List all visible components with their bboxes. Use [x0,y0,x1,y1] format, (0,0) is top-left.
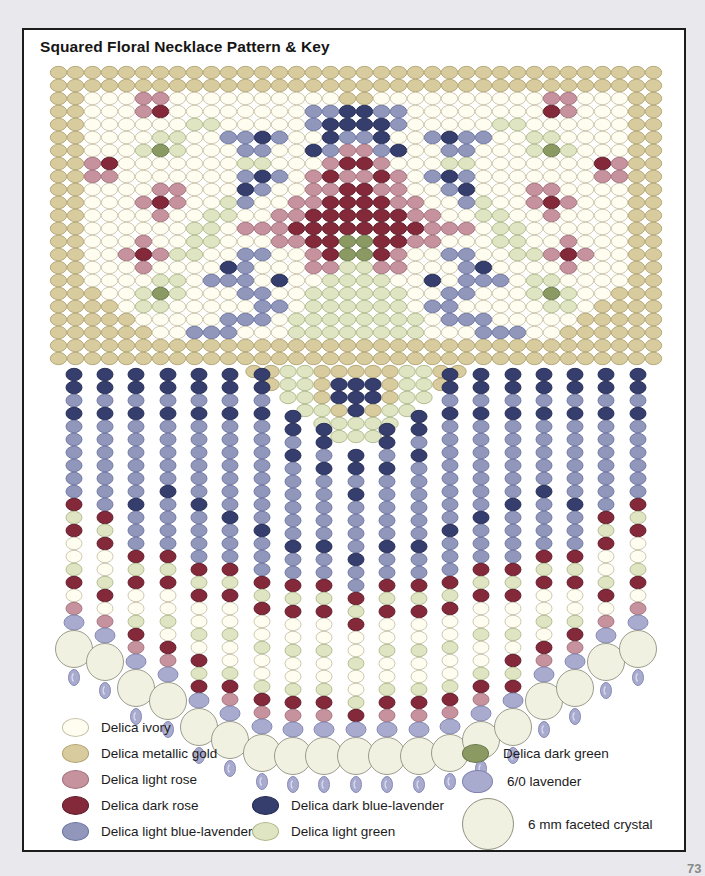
band-bead [560,235,576,247]
band-bead [339,118,355,130]
fringe-dangle-bead [414,777,425,793]
band-bead [628,287,644,299]
band-bead [543,248,559,260]
band-bead [101,248,117,260]
band-bead [305,131,321,143]
band-bead [339,170,355,182]
band-bead [441,274,457,286]
band-bead [322,261,338,273]
fringe-bead [97,472,113,484]
band-bead [526,313,542,325]
band-bead [169,326,185,338]
band-bead [356,261,372,273]
band-bead [475,300,491,312]
band-bead [560,92,576,104]
band-bead [407,261,423,273]
band-bead [373,209,389,221]
fringe-bead [473,394,489,406]
fringe-bead [285,605,301,617]
band-bead [526,261,542,273]
fringe-bead [411,605,427,617]
fringe-dangle-bead [508,748,519,764]
band-bead [475,66,491,78]
band-bead [220,274,236,286]
fringe-bead [630,550,646,562]
fringe-bead [348,696,364,708]
band-bead [577,339,593,351]
fringe-bead [567,446,583,458]
fringe-bead [536,394,552,406]
fringe-bead [505,680,521,692]
band-bead [135,157,151,169]
fringe-bead [316,644,332,656]
fringe-crystal [557,670,594,707]
band-bead [458,287,474,299]
fringe-bead [536,368,552,380]
fringe-bead [348,644,364,656]
fringe-bead [348,657,364,669]
band-bead [203,131,219,143]
band-bead [390,118,406,130]
fringe-bead [97,550,113,562]
band-bead [339,183,355,195]
band-bead [475,144,491,156]
band-bead [526,209,542,221]
band-bead [577,183,593,195]
fringe-bead [66,589,82,601]
band-bead [237,235,253,247]
fringe-bead [316,488,332,500]
band-bead [594,105,610,117]
band-bead [424,183,440,195]
band-bead [84,326,100,338]
band-bead [50,352,66,364]
fringe-bead [128,641,144,653]
band-bead [475,105,491,117]
fringe-bead [316,462,332,474]
band-bead [560,196,576,208]
band-bead [424,287,440,299]
band-bead [186,352,202,364]
band-bead [288,352,304,364]
fringe-bead [379,423,395,435]
band-bead [118,170,134,182]
fringe-bead [66,459,82,471]
fringe-bead [97,485,113,497]
fringe-bead [160,641,176,653]
band-bead [220,157,236,169]
fringe-bead [630,368,646,380]
fringe-bead [379,683,395,695]
band-bead [526,300,542,312]
band-bead [509,183,525,195]
fringe-bead [348,449,364,461]
triangle-bead [365,378,381,390]
band-bead [356,222,372,234]
band-bead [186,287,202,299]
fringe-bead [191,563,207,575]
fringe-bead [348,670,364,682]
band-bead [526,157,542,169]
fringe-bead [191,446,207,458]
fringe-bead [505,641,521,653]
band-bead [475,131,491,143]
band-bead [611,326,627,338]
fringe-bead [473,381,489,393]
band-bead [339,248,355,260]
band-bead [577,92,593,104]
band-bead [220,248,236,260]
fringe-bead [316,423,332,435]
band-bead [526,92,542,104]
band-bead [407,131,423,143]
fringe-bead [598,459,614,471]
band-bead [135,248,151,260]
fringe-bead [567,615,583,627]
band-bead [169,118,185,130]
band-bead [594,92,610,104]
fringe-bead [536,511,552,523]
band-bead [67,287,83,299]
band-bead [237,248,253,260]
band-bead [152,79,168,91]
band-bead [526,131,542,143]
band-bead [305,118,321,130]
fringe-bead [160,615,176,627]
band-bead [322,274,338,286]
